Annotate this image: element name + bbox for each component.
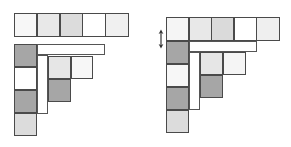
inner-cell — [223, 52, 246, 75]
top-row-cell — [37, 13, 60, 37]
top-row-cell — [82, 13, 105, 37]
column-cell — [166, 64, 189, 87]
white-horizontal-bar — [37, 44, 105, 55]
white-horizontal-bar — [189, 41, 257, 52]
top-row-cell — [105, 13, 128, 37]
top-row-cell — [14, 13, 37, 37]
white-vertical-bar — [37, 55, 48, 114]
column-cell — [14, 67, 37, 90]
top-row-cell — [256, 17, 279, 41]
double-arrow-icon — [156, 29, 166, 49]
column-cell — [14, 113, 37, 136]
top-row-cell — [234, 17, 257, 41]
inner-cell — [71, 56, 93, 79]
white-vertical-bar — [189, 52, 200, 110]
top-row-cell — [166, 17, 189, 41]
diagram-canvas — [0, 0, 291, 147]
column-cell — [166, 87, 189, 110]
column-cell — [14, 90, 37, 113]
top-row-cell — [189, 17, 212, 41]
column-cell — [14, 44, 37, 67]
top-row-cell — [60, 13, 83, 37]
inner-cell — [200, 52, 223, 75]
top-row-cell — [211, 17, 234, 41]
inner-cell — [200, 75, 223, 98]
column-cell — [166, 110, 189, 133]
inner-cell — [48, 79, 71, 102]
column-cell — [166, 41, 189, 64]
inner-cell — [48, 56, 71, 79]
